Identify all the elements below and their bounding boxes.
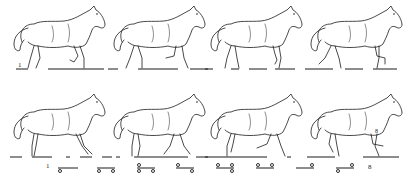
footfall-diagram-7 (296, 160, 318, 178)
horse-phase-3 (205, 2, 305, 72)
horse-phase-2 (108, 2, 208, 72)
footfall-diagram-5 (216, 160, 238, 178)
horse-phase-6 (108, 90, 208, 160)
footfall-diagram-6 (256, 160, 278, 178)
notation-end-label: 8 (368, 164, 372, 171)
footfall-diagram-8 (336, 160, 358, 178)
footfall-diagram-2 (97, 160, 119, 178)
horse-phase-7 (205, 90, 305, 160)
horse-phase-8 (305, 90, 405, 160)
horse-phase-4 (305, 2, 405, 72)
notation-start-label: 1 (46, 163, 50, 170)
horse-gait-figure: 1 8 1 8 (0, 0, 409, 182)
footfall-diagram-3 (137, 160, 159, 178)
horse-phase-5 (8, 90, 108, 160)
footfall-diagram-1 (58, 160, 80, 178)
horse-phase-1 (8, 2, 108, 72)
row-2-end-marker: 8 (375, 128, 378, 135)
footfall-diagram-4 (176, 160, 198, 178)
